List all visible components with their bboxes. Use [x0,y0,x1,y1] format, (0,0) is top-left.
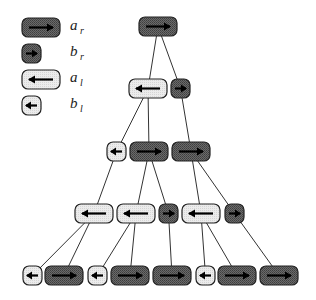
legend-icon-a-r [22,18,60,37]
node-b-l [107,142,126,161]
node-a-r [111,266,149,285]
node-b-r [171,79,190,98]
node-a-l [75,204,113,223]
legend-icon-b-r [22,44,41,63]
node-a-r [45,266,83,285]
legend-icon-a-l [22,70,60,89]
node-b-l [196,266,215,285]
node-a-r [130,142,168,161]
legend-label-a-r: a r [70,17,84,36]
node-a-l [117,204,155,223]
legend-icon-b-l [22,96,41,115]
node-b-r [159,204,178,223]
node-a-l [182,204,220,223]
node-a-r [218,266,256,285]
node-a-r [139,17,177,36]
legend-label-b-l: b l [70,95,83,114]
node-b-l [23,266,42,285]
legend-label-b-r: b r [70,43,84,62]
tree-diagram [0,0,316,300]
node-a-r [172,142,210,161]
node-a-r [260,266,298,285]
node-b-l [88,266,107,285]
legend-icons [22,18,60,115]
legend-label-a-l: a l [70,69,83,88]
node-b-r [225,204,244,223]
node-a-r [153,266,191,285]
node-a-l [129,79,167,98]
